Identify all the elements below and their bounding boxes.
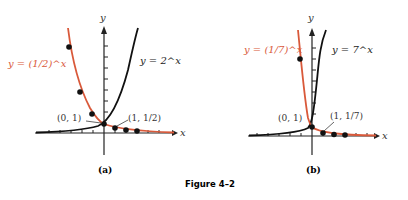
annotation-b-0-1: (0, 1)	[278, 113, 302, 123]
y-axis-arrow-icon	[309, 28, 315, 36]
figure-caption: Figure 4–2	[185, 179, 235, 189]
figure-graphs	[0, 0, 408, 200]
y-axis-label-a: y	[100, 12, 106, 23]
panel-a	[35, 26, 178, 155]
caption-a: (a)	[98, 165, 112, 175]
legend-7-pow-x: y = 7^x	[332, 44, 373, 55]
annotation-b-1-seventh: (1, 1/7)	[330, 111, 363, 121]
legend-seventh-pow-x: y = (1/7)^x	[244, 44, 302, 55]
legend-2-pow-x: y = 2^x	[140, 55, 181, 66]
y-axis-arrow-icon	[101, 26, 107, 34]
annotation-a-1-half: (1, 1/2)	[128, 113, 161, 123]
annotation-a-0-1: (0, 1)	[57, 113, 81, 123]
y-axis-label-b: y	[308, 12, 314, 23]
x-axis-label-b: x	[382, 130, 388, 141]
legend-half-pow-x: y = (1/2)^x	[8, 58, 66, 69]
x-axis-label-a: x	[180, 127, 186, 138]
curve-2-pow-x	[36, 28, 138, 133]
caption-b: (b)	[306, 165, 321, 175]
